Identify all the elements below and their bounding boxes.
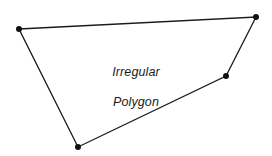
- polygon-canvas: [0, 0, 272, 156]
- vertex-bottom: [75, 144, 81, 150]
- polygon-outline: [19, 17, 256, 147]
- irregular-polygon-figure: Irregular Polygon: [0, 0, 272, 156]
- vertex-mid-right: [223, 73, 229, 79]
- vertex-top-left: [16, 26, 22, 32]
- vertex-top-right: [253, 14, 259, 20]
